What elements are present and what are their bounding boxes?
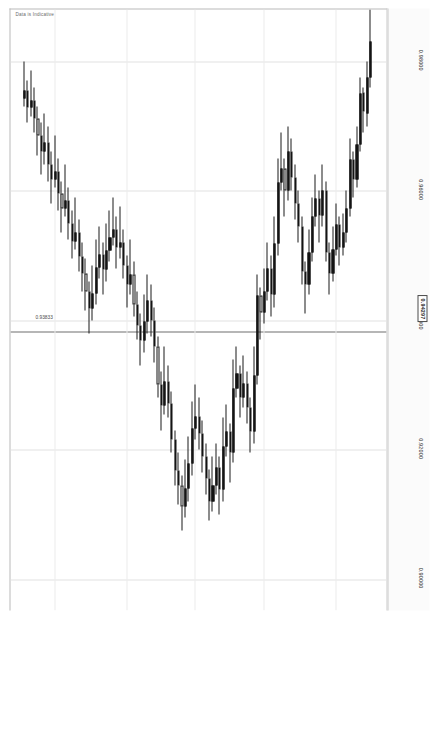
- reference-line-label: 0.93833: [35, 314, 52, 319]
- candle-body-up: [208, 478, 210, 501]
- candle-body-up: [198, 416, 200, 433]
- candle-body-down: [108, 237, 110, 250]
- candle-wick: [129, 239, 130, 294]
- candle-body-up: [102, 254, 104, 270]
- candle-body-down: [163, 381, 165, 405]
- candle-body-down: [280, 168, 282, 183]
- candle-wick: [242, 355, 243, 407]
- candlestick-chart: 0.980000.960000.940000.920000.900000.942…: [9, 8, 429, 610]
- candle-body-down: [342, 232, 344, 247]
- candle-body-up: [301, 226, 303, 271]
- candle-body-down: [349, 159, 351, 208]
- candle-body-down: [311, 216, 313, 252]
- candle-body-down: [307, 252, 309, 284]
- candle-body-down: [222, 446, 224, 489]
- value-axis: 0.980000.960000.940000.920000.900000.942…: [387, 8, 429, 610]
- candle-body-down: [119, 242, 121, 247]
- candle-body-down: [215, 467, 217, 484]
- value-tick-label: 0.92000: [417, 438, 423, 459]
- candle-body-down: [146, 300, 148, 321]
- candle-body-down: [366, 77, 368, 113]
- candle-body-up: [26, 90, 28, 107]
- candle-body-down: [369, 41, 371, 77]
- candle-body-down: [345, 208, 347, 232]
- candle-body-down: [143, 321, 145, 340]
- candle-wick: [43, 113, 44, 165]
- candle-body-down: [232, 388, 234, 453]
- time-gridline: [54, 9, 55, 610]
- candle-body-up: [318, 198, 320, 215]
- candle-body-up: [47, 142, 49, 165]
- candle-body-up: [36, 118, 38, 135]
- candle-body-down: [225, 431, 227, 446]
- candle-body-up: [156, 346, 158, 385]
- candle-body-down: [211, 485, 213, 501]
- candle-body-up: [78, 232, 80, 256]
- candle-body-down: [30, 100, 32, 108]
- candle-body-up: [81, 256, 83, 273]
- candle-body-up: [126, 265, 128, 284]
- figure-caption: Figure 3: Typical candlestick chart.: [408, 646, 429, 750]
- candle-body-up: [60, 193, 62, 208]
- candle-body-down: [129, 274, 131, 284]
- figure-page: 0.980000.960000.940000.920000.900000.942…: [0, 0, 437, 750]
- candle-body-down: [74, 232, 76, 240]
- value-tick-label: 0.98000: [417, 49, 423, 70]
- current-price-tag[interactable]: 0.94297: [417, 295, 427, 322]
- candle-body-up: [239, 373, 241, 398]
- candle-body-down: [314, 198, 316, 216]
- candle-body-up: [325, 190, 327, 251]
- candle-body-up: [205, 456, 207, 479]
- candle-body-up: [40, 135, 42, 151]
- candle-wick: [98, 226, 99, 278]
- candle-body-up: [170, 403, 172, 440]
- candle-wick: [119, 206, 120, 258]
- candle-body-up: [122, 242, 124, 265]
- candle-body-up: [160, 384, 162, 405]
- candle-wick: [54, 135, 55, 187]
- candle-body-up: [246, 383, 248, 407]
- candle-body-up: [297, 203, 299, 226]
- candle-body-up: [283, 168, 285, 191]
- candle-body-down: [54, 171, 56, 179]
- candle-body-down: [105, 250, 107, 269]
- candle-body-up: [328, 252, 330, 273]
- candle-body-down: [242, 383, 244, 397]
- candle-body-down: [43, 142, 45, 152]
- candle-body-down: [263, 291, 265, 312]
- candle-body-up: [249, 407, 251, 431]
- candle-body-up: [201, 433, 203, 456]
- candle-body-up: [259, 295, 261, 312]
- candle-body-up: [352, 159, 354, 178]
- value-gridline: [10, 320, 386, 321]
- candle-body-up: [167, 381, 169, 402]
- value-tick-label: 0.90000: [417, 567, 423, 588]
- candle-wick: [304, 261, 305, 313]
- candle-wick: [211, 456, 212, 511]
- candle-body-up: [84, 273, 86, 290]
- candle-body-up: [362, 92, 364, 111]
- candle-body-down: [91, 293, 93, 309]
- candle-body-up: [115, 229, 117, 247]
- candle-wick: [30, 70, 31, 115]
- time-gridline: [126, 9, 127, 610]
- time-gridline: [335, 9, 336, 610]
- candle-body-up: [136, 304, 138, 325]
- candle-body-down: [359, 93, 361, 143]
- candle-body-up: [50, 164, 52, 178]
- candle-body-down: [98, 254, 100, 267]
- candle-body-down: [321, 190, 323, 215]
- candle-body-down: [356, 144, 358, 179]
- candle-body-down: [273, 243, 275, 293]
- candle-body-down: [187, 463, 189, 488]
- candle-body-up: [304, 271, 306, 284]
- reference-line: [10, 331, 386, 332]
- candle-body-down: [331, 249, 333, 274]
- candle-body-down: [23, 90, 25, 98]
- candle-body-up: [33, 100, 35, 118]
- candle-body-up: [338, 224, 340, 247]
- candle-wick: [23, 61, 24, 106]
- candle-body-down: [256, 295, 258, 375]
- candle-body-down: [194, 416, 196, 429]
- candle-body-down: [184, 488, 186, 506]
